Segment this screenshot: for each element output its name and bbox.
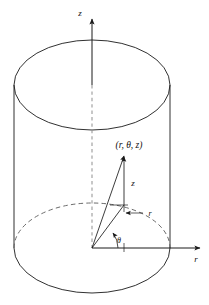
theta-label: θ — [117, 236, 121, 245]
r-axis-label: r — [194, 254, 198, 264]
radius-label: r — [148, 209, 152, 218]
cylindrical-coordinates-figure: z r (r, θ, z) z r θ — [0, 0, 209, 305]
z-axis-label: z — [77, 8, 82, 18]
cylinder-bottom-front-arc — [14, 248, 170, 293]
position-vector — [92, 156, 124, 248]
height-label: z — [130, 178, 135, 188]
point-label: (r, θ, z) — [116, 140, 143, 151]
figure-container: z r (r, θ, z) z r θ — [0, 0, 209, 305]
